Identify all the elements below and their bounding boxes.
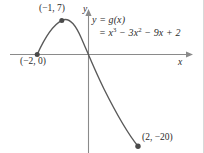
point-x-intercept-left bbox=[35, 52, 40, 57]
y-axis-arrowhead bbox=[85, 9, 91, 16]
cubic-curve bbox=[37, 19, 138, 146]
point-vertex-local-max bbox=[59, 18, 64, 23]
x-axis-arrowhead bbox=[186, 51, 193, 57]
function-graph-figure: (−1, 7) y (−2, 0) x y = g(x) = x3 − 3x2 … bbox=[0, 0, 204, 153]
y-axis bbox=[85, 9, 91, 153]
point-curve-endpoint bbox=[135, 144, 140, 149]
graph-canvas bbox=[0, 0, 204, 153]
